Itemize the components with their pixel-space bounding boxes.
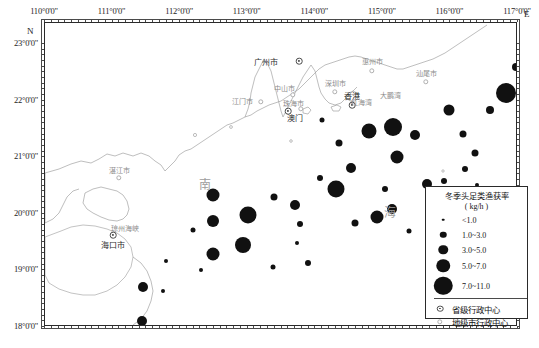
graticule-tick (274, 326, 275, 329)
legend-class-row: 3.0~5.0 (426, 242, 527, 257)
graticule-tick (281, 326, 282, 329)
catch-rate-point (460, 131, 467, 138)
catch-rate-point (320, 118, 325, 123)
place-label: 江门市 (232, 96, 253, 106)
graticule-tick (78, 326, 79, 329)
graticule-tick (517, 49, 520, 50)
graticule-tick (341, 326, 342, 329)
catch-rate-point (207, 215, 219, 227)
legend-class-row: 5.0~7.0 (426, 257, 527, 275)
left-axis-label: 23°0'0" (0, 38, 38, 48)
legend-class-row: 1.0~3.0 (426, 227, 527, 242)
place-label: 汕尾市 (416, 68, 437, 78)
sea-name-label: 海 (384, 203, 396, 221)
legend-divider (434, 298, 527, 299)
graticule-tick (44, 326, 45, 329)
graticule-tick (240, 326, 241, 329)
top-axis-label: 110°0'0" (30, 6, 58, 16)
graticule-tick (517, 151, 520, 152)
sea-name-label: 南 (199, 175, 211, 193)
catch-rate-point (486, 106, 494, 114)
legend-class-label: 5.0~7.0 (462, 261, 486, 270)
graticule-tick (348, 326, 349, 329)
graticule-tick (517, 111, 520, 112)
legend-symbol (434, 277, 453, 296)
graticule-tick (517, 122, 520, 123)
legend-size-classes: <1.01.0~3.03.0~5.05.0~7.07.0~11.0 (426, 212, 527, 297)
legend-unit: ( kg/h ) (426, 202, 527, 212)
catch-rate-point (346, 163, 356, 173)
graticule-tick (517, 88, 520, 89)
legend-class-row: 7.0~11.0 (426, 275, 527, 298)
graticule-tick (247, 326, 248, 329)
catch-rate-point (199, 268, 203, 272)
catch-rate-point (410, 130, 420, 140)
top-axis-label: 112°0'0" (165, 6, 193, 16)
graticule-tick (368, 326, 369, 329)
graticule-tick (517, 83, 520, 84)
capital-dot-icon (437, 305, 444, 312)
graticule-tick (85, 326, 86, 329)
place-label: 广州市 (254, 56, 278, 67)
graticule-tick (301, 326, 302, 329)
graticule-tick (253, 326, 254, 329)
graticule-tick (517, 179, 520, 180)
graticule-tick (517, 139, 520, 140)
graticule-tick (132, 326, 133, 329)
left-axis-label: 19°0'0" (0, 264, 38, 274)
graticule-tick (517, 100, 520, 101)
catch-rate-point (161, 289, 165, 293)
place-label: 海口市 (101, 239, 125, 250)
catch-rate-point (137, 316, 147, 326)
catch-rate-point (384, 118, 402, 136)
graticule-tick (233, 326, 234, 329)
graticule-tick (517, 173, 520, 174)
capital-dot-icon (296, 58, 303, 65)
legend-class-row: <1.0 (426, 212, 527, 227)
catch-rate-point (512, 63, 517, 71)
graticule-tick (422, 326, 423, 329)
legend-symbol (436, 259, 450, 273)
graticule-tick (314, 326, 315, 329)
graticule-tick (179, 326, 180, 329)
graticule-tick (517, 54, 520, 55)
place-label: 大鹏湾 (380, 90, 401, 100)
graticule-tick (402, 326, 403, 329)
catch-rate-point (271, 194, 278, 201)
catch-rate-point (382, 186, 388, 192)
top-axis-label: 111°0'0" (98, 6, 125, 16)
graticule-tick (267, 326, 268, 329)
top-axis-label: 113°0'0" (233, 6, 261, 16)
graticule-tick (517, 105, 520, 106)
place-label: 惠州市 (362, 56, 383, 66)
graticule-tick (125, 326, 126, 329)
graticule-tick (355, 326, 356, 329)
legend-class-label: 1.0~3.0 (462, 230, 486, 239)
graticule-tick (389, 326, 390, 329)
catch-rate-point (240, 207, 257, 224)
graticule-tick (51, 326, 52, 329)
graticule-tick (41, 326, 44, 327)
place-label: 深圳市 (325, 78, 346, 88)
graticule-tick (98, 326, 99, 329)
graticule-tick (145, 326, 146, 329)
catch-rate-point (352, 220, 359, 227)
graticule-tick (517, 117, 520, 118)
graticule-tick (226, 326, 227, 329)
north-marker: N (27, 26, 34, 36)
map-legend: 冬季头足类渔获率 ( kg/h ) <1.01.0~3.03.0~5.05.0~… (425, 186, 528, 319)
graticule-tick (294, 326, 295, 329)
graticule-tick (199, 326, 200, 329)
catch-rate-point (295, 241, 299, 245)
graticule-tick (213, 326, 214, 329)
legend-title: 冬季头足类渔获率 (426, 191, 527, 202)
graticule-tick (105, 326, 106, 329)
graticule-tick (517, 162, 520, 163)
catch-rate-point (207, 248, 220, 261)
catch-rate-point (462, 166, 468, 172)
graticule-tick (517, 77, 520, 78)
top-axis-label: 117°0'0" (503, 6, 531, 16)
place-label: 湛江市 (109, 165, 130, 175)
legend-symbol (440, 231, 447, 238)
legend-marker-label: 省级行政中心 (452, 303, 500, 315)
